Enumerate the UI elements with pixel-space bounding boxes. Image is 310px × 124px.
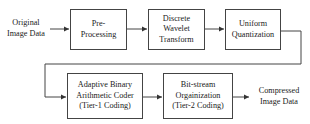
input-label-line: Original [2, 18, 50, 29]
block-text: (Tier-2 Coding) [172, 101, 224, 112]
block-text: Pre- [81, 19, 116, 30]
block-text: Processing [81, 30, 116, 41]
block-text: Arithmetic Coder [76, 91, 134, 102]
output-label: Compressed Image Data [250, 86, 308, 107]
block-text: Discrete [159, 14, 193, 25]
input-label: Original Image Data [2, 18, 50, 39]
block-text: Quantization [232, 30, 274, 41]
block-tier2: Bit-stream Orgainization (Tier-2 Coding) [163, 73, 233, 119]
block-dwt: Discrete Wavelet Transform [148, 9, 205, 50]
input-label-line: Image Data [2, 29, 50, 40]
block-text: Transform [159, 35, 193, 46]
block-text: (Tier-1 Coding) [76, 101, 134, 112]
block-text: Orgainization [172, 91, 224, 102]
block-text: Uniform [232, 19, 274, 30]
block-tier1: Adaptive Binary Arithmetic Coder (Tier-1… [67, 73, 143, 119]
output-label-line: Image Data [250, 97, 308, 108]
block-text: Bit-stream [172, 80, 224, 91]
block-text: Adaptive Binary [76, 80, 134, 91]
block-text: Wavelet [159, 24, 193, 35]
block-preprocessing: Pre- Processing [70, 9, 127, 50]
output-label-line: Compressed [250, 86, 308, 97]
block-quantization: Uniform Quantization [225, 9, 281, 50]
